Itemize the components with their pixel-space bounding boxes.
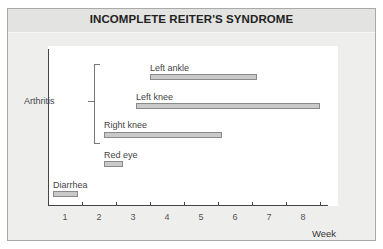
x-tick xyxy=(286,202,287,206)
chart-header: INCOMPLETE REITER'S SYNDROME xyxy=(8,9,375,33)
x-tick-label: 1 xyxy=(55,212,75,222)
x-tick xyxy=(184,202,185,206)
x-tick-label: 7 xyxy=(259,212,279,222)
x-tick xyxy=(116,202,117,206)
y-axis xyxy=(48,49,49,206)
x-tick-label: 3 xyxy=(123,212,143,222)
bar-right-knee xyxy=(104,132,222,138)
plot-area xyxy=(48,46,338,206)
bar-left-ankle xyxy=(150,74,257,80)
arthritis-bracket-dash xyxy=(88,101,94,102)
x-axis-label: Week xyxy=(312,228,336,239)
bar-label-left-knee: Left knee xyxy=(136,92,173,102)
x-tick-label: 2 xyxy=(89,212,109,222)
arthritis-bracket xyxy=(94,64,100,144)
bar-label-left-ankle: Left ankle xyxy=(150,63,189,73)
group-label-arthritis: Arthritis xyxy=(24,96,55,106)
x-tick xyxy=(218,202,219,206)
bar-label-diarrhea: Diarrhea xyxy=(53,180,88,190)
chart-title: INCOMPLETE REITER'S SYNDROME xyxy=(8,13,375,25)
x-tick xyxy=(150,202,151,206)
x-tick-label: 4 xyxy=(157,212,177,222)
bar-red-eye xyxy=(104,161,123,167)
bar-left-knee xyxy=(136,103,320,109)
x-tick-label: 6 xyxy=(225,212,245,222)
bar-label-right-knee: Right knee xyxy=(104,120,147,130)
x-tick xyxy=(82,202,83,206)
x-tick xyxy=(252,202,253,206)
chart-frame: INCOMPLETE REITER'S SYNDROME 1 2 3 4 5 6… xyxy=(7,8,376,241)
x-tick-label: 8 xyxy=(293,212,313,222)
bar-diarrhea xyxy=(53,191,78,197)
bar-label-red-eye: Red eye xyxy=(104,150,138,160)
x-tick xyxy=(48,202,49,206)
x-tick xyxy=(320,202,321,206)
x-tick-label: 5 xyxy=(191,212,211,222)
